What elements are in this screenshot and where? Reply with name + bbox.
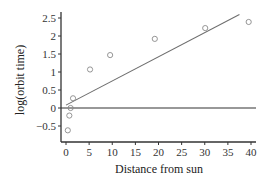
scatter-chart: 2.521.510.50−0.5 0510152025303540 Distan… <box>0 0 273 194</box>
y-tick-label: 0.5 <box>42 84 56 96</box>
data-point <box>246 19 251 24</box>
y-tick-label: 2.5 <box>42 12 56 24</box>
x-tick-label: 20 <box>153 146 165 158</box>
y-tick-label: −0.5 <box>36 120 56 132</box>
fit-line <box>66 14 239 105</box>
x-tick-label: 5 <box>86 146 92 158</box>
y-axis-ticks: 2.521.510.50−0.5 <box>36 12 61 132</box>
data-point <box>108 52 113 57</box>
plot-area <box>61 12 256 142</box>
x-tick-label: 40 <box>246 146 258 158</box>
x-tick-label: 30 <box>199 146 211 158</box>
y-axis-title: log(orbit time) <box>13 45 27 115</box>
data-point <box>70 96 75 101</box>
x-tick-label: 15 <box>130 146 142 158</box>
x-axis-ticks: 0510152025303540 <box>63 142 257 158</box>
y-tick-label: 0 <box>51 102 57 114</box>
data-point <box>152 36 157 41</box>
x-tick-label: 0 <box>63 146 69 158</box>
x-axis-title: Distance from sun <box>115 162 203 176</box>
y-tick-label: 1.5 <box>42 48 56 60</box>
data-point <box>87 67 92 72</box>
data-point <box>203 25 208 30</box>
data-point <box>65 128 70 133</box>
y-tick-label: 1 <box>51 66 57 78</box>
data-point <box>67 113 72 118</box>
x-tick-label: 10 <box>107 146 119 158</box>
y-tick-label: 2 <box>51 30 57 42</box>
x-tick-label: 35 <box>222 146 234 158</box>
x-tick-label: 25 <box>176 146 188 158</box>
